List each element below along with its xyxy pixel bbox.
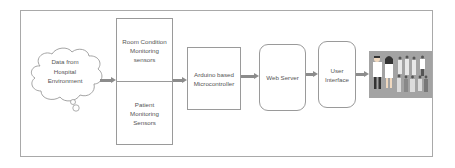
arrow-icon bbox=[356, 72, 369, 77]
patient-sensor-label-line: Monitoring bbox=[130, 109, 159, 118]
controller-label-line: Arduino based bbox=[194, 70, 235, 79]
medical-staff-people-icon bbox=[369, 51, 432, 98]
source-label-line: Hospital bbox=[36, 67, 94, 77]
ui-label-line: User bbox=[325, 66, 349, 75]
source-label-line: Environment bbox=[36, 76, 94, 86]
arrow-icon bbox=[306, 72, 318, 77]
source-label-line: Data from bbox=[36, 57, 94, 67]
controller-label-line: Microcontroller bbox=[194, 79, 235, 88]
user-interface-box: User Interface bbox=[318, 41, 356, 108]
microcontroller-box: Arduino based Microcontroller bbox=[187, 47, 241, 110]
arrow-icon bbox=[241, 74, 259, 79]
room-sensor-label-line: sensors bbox=[122, 55, 166, 64]
room-sensor-label-line: Room Condition bbox=[122, 37, 166, 46]
room-sensor-label-line: Monitoring bbox=[122, 46, 166, 55]
sensors-box: Room Condition Monitoring sensors Patien… bbox=[116, 18, 173, 145]
web-server-label: Web Server bbox=[266, 73, 299, 82]
room-condition-sensors: Room Condition Monitoring sensors bbox=[117, 19, 172, 82]
patient-sensor-label-line: Patient bbox=[130, 100, 159, 109]
arrow-icon bbox=[100, 78, 116, 83]
web-server-box: Web Server bbox=[259, 44, 306, 111]
arrow-icon bbox=[173, 78, 187, 83]
source-label: Data from Hospital Environment bbox=[36, 57, 94, 86]
patient-sensor-label-line: Sensors bbox=[130, 118, 159, 127]
ui-label-line: Interface bbox=[325, 75, 349, 84]
patient-monitoring-sensors: Patient Monitoring Sensors bbox=[117, 82, 172, 144]
